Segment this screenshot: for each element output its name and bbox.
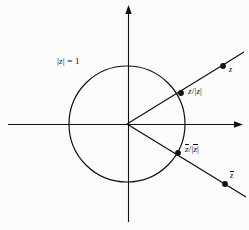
zbar-normalized-label: z/|z|: [185, 145, 199, 154]
figure-canvas: [0, 0, 249, 230]
imaginary-axis-arrowhead: [125, 5, 131, 14]
real-axis-arrowhead: [234, 121, 243, 127]
z-normalized-point: [178, 90, 184, 96]
ray-to-z: [127, 52, 244, 124]
zbar-point-label: z: [230, 172, 233, 180]
z-point-label: z: [229, 66, 232, 74]
z-point: [220, 63, 226, 69]
zbar-normalized-point: [175, 150, 181, 156]
unit-circle-label: |z| = 1: [57, 57, 80, 66]
z-normalized-label: z/|z|: [188, 87, 202, 96]
zbar-point: [222, 181, 228, 187]
complex-plane-figure: |z| = 1 z/|z| z/|z| z z: [0, 0, 249, 230]
ray-to-zbar: [127, 124, 246, 197]
